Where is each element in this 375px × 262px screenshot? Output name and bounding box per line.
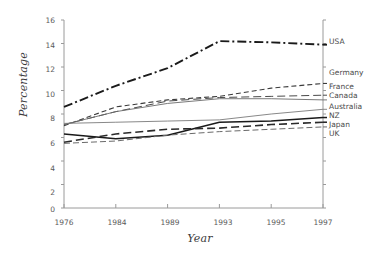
plot-area: [0, 0, 375, 262]
series-line-germany: [64, 83, 323, 125]
series-line-usa: [64, 41, 323, 107]
chart-figure: Percentage Year 16 14 12 10 8 6 4 2 0 19…: [0, 0, 375, 262]
data-series-group: [64, 41, 327, 143]
series-line-japan: [64, 122, 323, 142]
axes: [61, 20, 326, 208]
